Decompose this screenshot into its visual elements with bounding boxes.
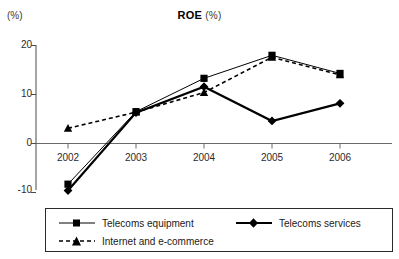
legend-label-internet-ecommerce: Internet and e-commerce — [102, 236, 214, 247]
legend-item-internet-ecommerce: Internet and e-commerce — [59, 235, 214, 247]
data-point — [200, 88, 208, 96]
data-point — [200, 75, 207, 82]
data-point — [336, 99, 345, 108]
series-telecoms-services — [64, 82, 345, 195]
series-layer — [64, 52, 345, 195]
legend-item-telecoms-equipment: Telecoms equipment — [59, 217, 194, 229]
legend-swatch-square-solid — [59, 217, 95, 229]
data-point — [268, 117, 277, 126]
series-internet-and-e-commerce — [64, 53, 344, 132]
legend-swatch-triangle-dashed — [59, 235, 95, 247]
legend-label-telecoms-services: Telecoms services — [279, 218, 361, 229]
axes — [36, 45, 392, 190]
series-telecoms-equipment — [64, 52, 343, 188]
legend-item-telecoms-services: Telecoms services — [236, 217, 361, 229]
roe-line-chart: (%) ROE (%) 20 10 0 -10 2002 2003 2004 2… — [0, 0, 399, 259]
legend-swatch-diamond-solid — [236, 217, 272, 229]
legend-label-telecoms-equipment: Telecoms equipment — [102, 218, 194, 229]
y-tick-marks — [31, 46, 36, 193]
chart-legend: Telecoms equipment Telecoms services Int… — [45, 208, 393, 252]
